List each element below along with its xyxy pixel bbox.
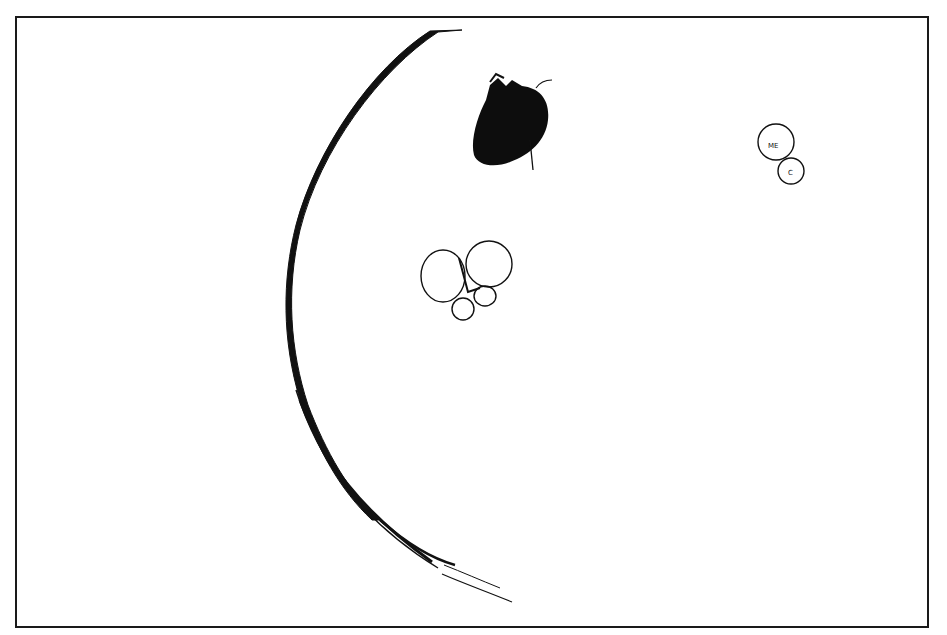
large-arc	[286, 30, 512, 602]
cell-c-label: C	[788, 169, 793, 177]
filled-blob	[473, 74, 552, 170]
cell-me-label: ME	[768, 142, 778, 150]
labeled-cells: ME C	[758, 124, 804, 184]
sketch-canvas: ME C	[0, 0, 947, 635]
cluster-cell-large-right	[466, 241, 512, 287]
cell-cluster	[421, 241, 512, 320]
cluster-cell-large-left	[421, 250, 465, 302]
cluster-cell-small-bottom	[452, 298, 474, 320]
